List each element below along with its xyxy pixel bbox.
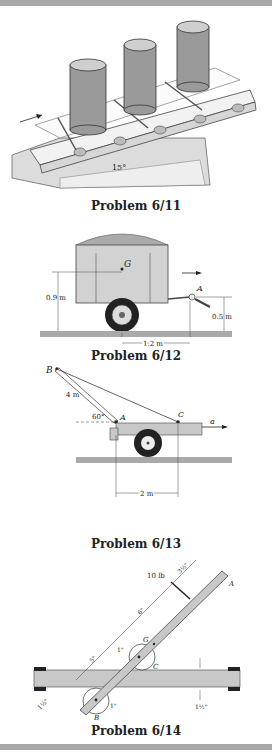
caption-problem-6-12: Problem 6/12 xyxy=(0,349,272,363)
label-accel: a xyxy=(210,417,215,426)
angle-60: 60° xyxy=(92,413,104,421)
label-c: C xyxy=(153,663,159,671)
top-border-bar xyxy=(0,0,272,6)
caption-problem-6-11: Problem 6/11 xyxy=(0,199,272,213)
label-a: A xyxy=(196,284,203,293)
figure-boom-trailer: B 4 m 60° A C a 2 m xyxy=(0,365,272,520)
dim-5in: 5" xyxy=(88,654,98,664)
bottom-border-bar xyxy=(0,744,272,750)
label-b: B xyxy=(45,365,53,375)
dim-6in: 6" xyxy=(136,606,146,616)
label-force: 10 lb xyxy=(147,572,165,580)
angle-label: 15° xyxy=(112,163,126,172)
dim-1-5in-left: 1½" xyxy=(36,697,50,711)
label-end-a: A xyxy=(228,580,234,588)
label-g: G xyxy=(124,259,131,269)
dim-4m: 4 m xyxy=(66,391,80,399)
dim-0-5m: 0.5 m xyxy=(212,313,232,321)
dim-1-5in-right: 1½" xyxy=(195,703,208,710)
label-b: B xyxy=(93,714,99,720)
label-a: A xyxy=(119,413,126,422)
dim-1in-bottom: 1" xyxy=(110,702,117,709)
dim-1in-top: 1" xyxy=(117,646,124,653)
dim-1-2m: 1.2 m xyxy=(143,340,163,348)
dim-0-9m: 0.9 m xyxy=(46,294,66,302)
figure-conveyor: 15° xyxy=(0,10,272,190)
dim-3-5in: 3½" xyxy=(176,561,190,575)
figure-bar-slider: 10 lb 3½" 6" 5" A G C B 1" 1" 1½" 1½" xyxy=(0,560,272,720)
label-c: C xyxy=(178,410,184,419)
label-g: G xyxy=(143,636,149,644)
dim-2m: 2 m xyxy=(140,490,154,498)
caption-problem-6-13: Problem 6/13 xyxy=(0,537,272,551)
caption-problem-6-14: Problem 6/14 xyxy=(0,724,272,738)
figure-trailer: G 0.9 m A 0.5 m xyxy=(0,225,272,337)
